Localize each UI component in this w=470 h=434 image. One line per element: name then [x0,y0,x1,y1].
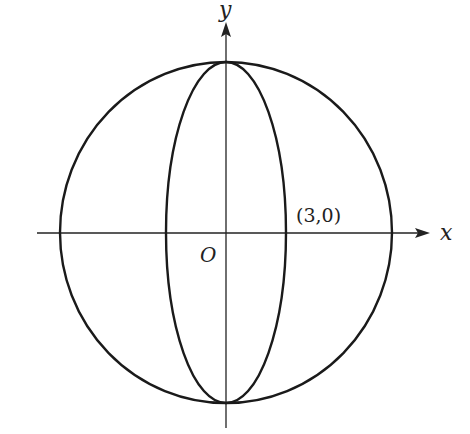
point-label: (3,0) [296,204,341,226]
y-axis-label: y [218,0,232,22]
x-axis-label: x [440,220,453,245]
diagram-canvas: y x O (3,0) [0,0,470,434]
diagram-svg: y x O (3,0) [0,0,470,434]
origin-label: O [200,243,216,267]
